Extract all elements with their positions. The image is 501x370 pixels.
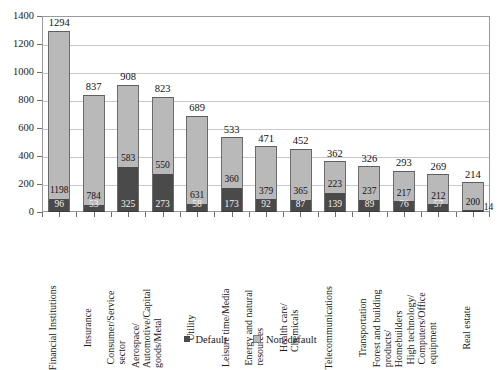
- y-axis-tick-label: 200: [18, 179, 34, 190]
- x-axis-tick-mark: [387, 212, 388, 217]
- x-axis-category-label-line: sector: [117, 291, 128, 365]
- legend-item[interactable]: Non-default: [253, 334, 317, 345]
- x-axis-tick-mark: [283, 212, 284, 217]
- stacked-bar[interactable]: 20014: [462, 182, 484, 212]
- bar-group[interactable]: 32623789: [352, 16, 386, 212]
- bar-segment-default[interactable]: 53: [83, 205, 105, 212]
- bar-segment-non-default[interactable]: 360: [221, 137, 243, 187]
- x-axis-label-slot: Financial Institutions: [42, 218, 76, 328]
- bar-total-value: 533: [224, 125, 240, 136]
- bar-segment-value-non-default: 217: [394, 189, 414, 199]
- bar-segment-non-default[interactable]: 200: [462, 182, 484, 210]
- bar-segment-default[interactable]: 325: [117, 167, 139, 213]
- x-axis-category-label-line: Financial Institutions: [48, 286, 59, 370]
- x-axis-tick-mark: [438, 212, 439, 217]
- x-axis-category-label: Transportation: [359, 299, 370, 358]
- bar-segment-non-default[interactable]: 365: [290, 149, 312, 200]
- bar-segment-value-default: 76: [394, 200, 414, 210]
- chart-legend: DefaultNon-default: [0, 331, 501, 347]
- x-axis-tick-mark: [473, 212, 474, 217]
- y-axis-tick-label: 400: [18, 151, 34, 162]
- bar-segment-non-default[interactable]: 631: [186, 116, 208, 204]
- bar-group[interactable]: 47137992: [249, 16, 283, 212]
- stacked-bar[interactable]: 119896: [48, 31, 70, 212]
- bar-segment-non-default[interactable]: 550: [152, 97, 174, 174]
- x-axis-tick-mark: [163, 212, 164, 217]
- bar-total-value: 471: [258, 134, 274, 145]
- stacked-bar[interactable]: 78453: [83, 95, 105, 212]
- y-axis-tick-label: 0: [29, 207, 34, 218]
- stacked-bar[interactable]: 63158: [186, 116, 208, 212]
- bar-group[interactable]: 362223139: [318, 16, 352, 212]
- x-axis-category-label: High technology/Computers/Officeequipmen…: [406, 292, 438, 364]
- y-axis-tick-label: 800: [18, 95, 34, 106]
- bar-group[interactable]: 26921257: [421, 16, 455, 212]
- bar-group[interactable]: 908583325: [111, 16, 145, 212]
- stacked-bar[interactable]: 550273: [152, 97, 174, 212]
- stacked-bar[interactable]: 360173: [221, 137, 243, 212]
- bar-group[interactable]: 29321776: [387, 16, 421, 212]
- bar-segment-value-default: 273: [153, 200, 173, 210]
- bar-total-value: 326: [362, 154, 378, 165]
- x-axis-category-label: Consumer/Servicesector: [107, 291, 129, 365]
- bar-segment-default[interactable]: 139: [324, 193, 346, 212]
- legend-item[interactable]: Default: [184, 334, 227, 345]
- bar-group[interactable]: 21420014: [456, 16, 490, 212]
- stacked-bar[interactable]: 21257: [427, 174, 449, 212]
- bar-group[interactable]: 45236587: [283, 16, 317, 212]
- x-axis-category-label: Telecommunications: [324, 286, 335, 369]
- bar-segment-default[interactable]: 89: [358, 200, 380, 212]
- bar-segment-non-default[interactable]: 379: [255, 146, 277, 199]
- bar-segment-default[interactable]: 57: [427, 204, 449, 212]
- x-axis-tick-mark: [404, 212, 405, 217]
- bar-group[interactable]: 68963158: [180, 16, 214, 212]
- bar-segment-value-default: 173: [222, 200, 242, 210]
- y-axis: 0200400600800100012001400: [0, 0, 42, 228]
- x-axis-tick-mark: [318, 212, 319, 217]
- x-axis-tick-mark: [266, 212, 267, 217]
- x-axis-category-label-line: Automotive/Capital: [141, 288, 152, 367]
- bar-segment-default[interactable]: 76: [393, 201, 415, 212]
- bar-segment-value-non-default: 379: [256, 187, 276, 197]
- stacked-bar[interactable]: 23789: [358, 166, 380, 212]
- bar-group[interactable]: 533360173: [214, 16, 248, 212]
- bar-total-value: 293: [396, 158, 412, 169]
- x-axis-category-label-line: Transportation: [359, 299, 370, 358]
- x-axis-category-label: Aerospace/Automotive/Capitalgoods/Metal: [130, 288, 162, 367]
- bar-segment-default[interactable]: 273: [152, 174, 174, 212]
- stacked-bar[interactable]: 583325: [117, 85, 139, 212]
- x-axis-category-label-line: resources: [255, 290, 266, 366]
- bar-group[interactable]: 83778453: [76, 16, 110, 212]
- bar-segment-value-default: 325: [118, 200, 138, 210]
- x-axis-tick-mark: [76, 212, 77, 217]
- x-axis-tick-mark: [111, 212, 112, 217]
- bar-segment-non-default[interactable]: 217: [393, 171, 415, 201]
- bar-segment-default[interactable]: 96: [48, 199, 70, 212]
- stacked-bar[interactable]: 37992: [255, 146, 277, 212]
- bar-segment-value-non-default: 200: [463, 198, 483, 208]
- bar-total-value: 362: [327, 149, 343, 160]
- x-axis-label-slot: Real estate: [456, 218, 490, 328]
- stacked-bar[interactable]: 223139: [324, 161, 346, 212]
- bar-segment-non-default[interactable]: 237: [358, 166, 380, 199]
- bar-segment-value-default: 87: [291, 200, 311, 210]
- stacked-bar[interactable]: 21776: [393, 171, 415, 212]
- bar-segment-default[interactable]: 92: [255, 199, 277, 212]
- bar-segment-non-default[interactable]: 583: [117, 85, 139, 167]
- bar-segment-non-default[interactable]: 784: [83, 95, 105, 205]
- bar-group[interactable]: 1294119896: [42, 16, 76, 212]
- bar-segment-default[interactable]: 87: [290, 200, 312, 212]
- bar-total-value: 269: [431, 162, 447, 173]
- bar-group[interactable]: 823550273: [145, 16, 179, 212]
- y-axis-tick-label: 600: [18, 123, 34, 134]
- bar-segment-default[interactable]: 173: [221, 188, 243, 212]
- bar-segment-value-default: 53: [84, 200, 104, 210]
- stacked-bar[interactable]: 36587: [290, 149, 312, 212]
- bar-segment-non-default[interactable]: 223: [324, 161, 346, 192]
- bar-segment-non-default[interactable]: 1198: [48, 31, 70, 199]
- bar-segment-default[interactable]: 58: [186, 204, 208, 212]
- x-axis-category-label: Energy and naturalresources: [244, 290, 266, 366]
- x-axis-category-label-line: Telecommunications: [324, 286, 335, 369]
- legend-swatch-non-default: [253, 335, 261, 343]
